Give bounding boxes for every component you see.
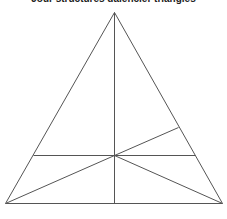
triangle-diagram [0, 0, 227, 219]
right-side-line [115, 13, 223, 204]
left-side-line [6, 13, 115, 204]
center-to-bottom-left-line [6, 156, 115, 204]
center-to-right-side-line [115, 128, 179, 156]
center-to-bottom-right-line [115, 156, 223, 204]
